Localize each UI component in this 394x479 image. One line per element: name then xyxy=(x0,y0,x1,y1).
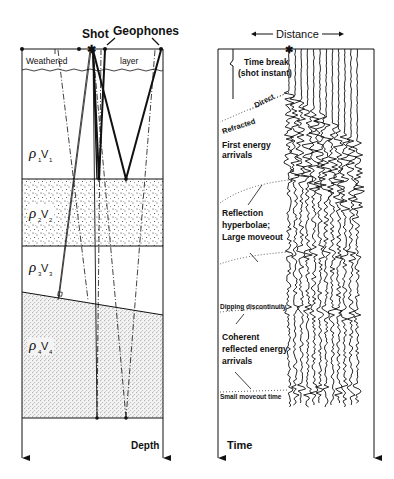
weathered-label: Weathered xyxy=(26,56,68,66)
svg-text:3: 3 xyxy=(49,271,53,277)
arrow-right-icon xyxy=(339,32,344,37)
shot-instant-label: (shot instant) xyxy=(238,68,292,78)
refracted-label: Refracted xyxy=(221,117,257,136)
reflection-label: Reflection xyxy=(222,208,263,218)
svg-text:V: V xyxy=(41,148,49,160)
geophone-pointer xyxy=(152,38,159,45)
geophones-label: Geophones xyxy=(113,24,179,38)
layer-label: layer xyxy=(120,56,139,66)
seismic-diagram: ✱ Shot Geophones Weathered laye xyxy=(0,0,394,479)
small-moveout-label: Small moveout time xyxy=(220,393,282,400)
reflected-energy-label: reflected energy xyxy=(222,344,288,354)
seismic-trace xyxy=(346,49,357,405)
svg-text:ρ: ρ xyxy=(28,337,36,353)
coherent-label: Coherent xyxy=(222,332,259,342)
time-axis-label: Time xyxy=(227,439,252,451)
surface-point-icon xyxy=(77,47,81,51)
svg-text:ρ: ρ xyxy=(28,205,36,221)
layer-1-label: ρ 1 V 1 xyxy=(28,145,53,163)
seismic-trace xyxy=(328,49,338,405)
seismic-trace xyxy=(352,49,364,403)
shot-label: Shot xyxy=(82,27,109,41)
seismogram-panel: Distance ✱ Time break (shot instant) Dir… xyxy=(218,28,374,458)
small-moveout-line xyxy=(220,390,289,392)
arrivals-label: arrivals xyxy=(222,150,253,160)
svg-text:ρ: ρ xyxy=(28,259,36,275)
svg-text:V: V xyxy=(41,262,49,274)
time-break-trace xyxy=(230,49,233,99)
svg-text:1: 1 xyxy=(49,157,53,163)
time-break-label: Time break xyxy=(244,57,289,67)
distance-label: Distance xyxy=(276,28,319,40)
weathered-layer-base xyxy=(22,69,163,71)
arrow-left-icon xyxy=(251,32,256,37)
svg-text:V: V xyxy=(41,208,49,220)
svg-text:V: V xyxy=(41,340,49,352)
dipping-discontinuity-label: Dipping discontinuity xyxy=(220,303,287,311)
earth-model-panel: ✱ Shot Geophones Weathered laye xyxy=(20,24,179,458)
svg-text:ρ: ρ xyxy=(28,145,36,161)
seismic-traces xyxy=(284,49,364,407)
hyperbolae-label: hyperbolae; xyxy=(222,220,270,230)
reflection-point-icon xyxy=(97,177,101,181)
reflection-point-icon xyxy=(95,416,99,420)
shot-star-icon: ✱ xyxy=(285,44,294,55)
first-energy-label: First energy xyxy=(222,140,271,150)
surface-point-icon xyxy=(20,47,24,51)
layer-2-label: ρ 2 V 2 xyxy=(28,205,54,223)
direct-label: Direct xyxy=(253,92,276,110)
coherent-arrivals-label: arrivals xyxy=(222,356,253,366)
depth-axis-label: Depth xyxy=(131,440,159,451)
layer-4-label: ρ 4 V 4 xyxy=(28,337,54,355)
large-moveout-label: Large moveout xyxy=(222,232,283,242)
reflection-point-icon xyxy=(124,416,128,420)
layer-3-label: ρ 3 V 3 xyxy=(28,259,53,277)
reflection-hyperbola-1 xyxy=(220,180,289,203)
reflection-point-icon xyxy=(124,177,128,181)
